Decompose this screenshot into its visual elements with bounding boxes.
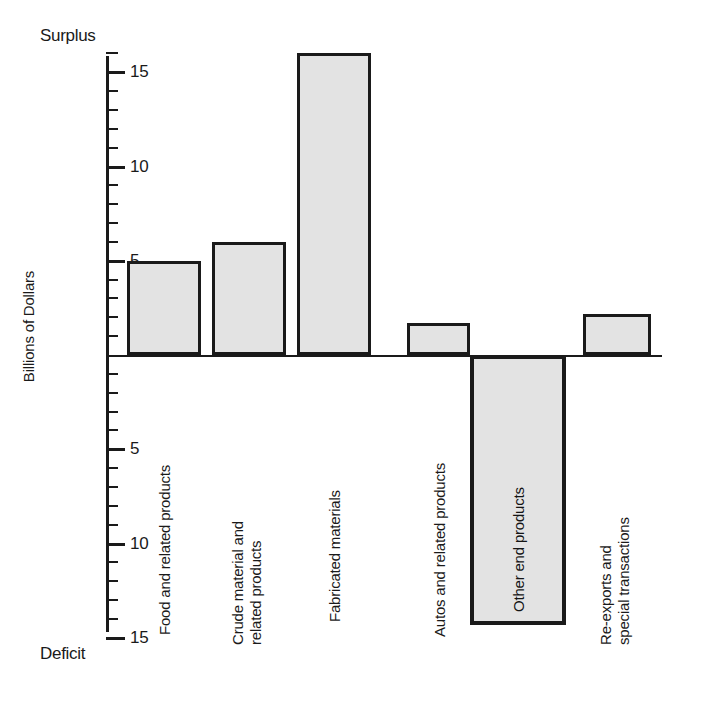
bar-reexports[interactable] — [583, 314, 651, 355]
y-tick-label: 10 — [130, 534, 148, 554]
y-tick-pos14 — [106, 90, 118, 92]
y-tick-label: 10 — [130, 157, 148, 177]
category-label-0: Food and related products — [156, 465, 174, 635]
y-axis-spine — [106, 56, 109, 632]
bar-crude[interactable] — [212, 242, 286, 355]
y-tick-pos6 — [106, 241, 118, 243]
category-label-line1: Crude material and — [229, 521, 246, 645]
y-tick-neg15 — [106, 637, 125, 640]
category-label-1: Crude material andrelated products — [229, 521, 264, 645]
bar-fabricated[interactable] — [297, 53, 371, 355]
y-tick-pos5 — [106, 260, 125, 263]
category-label-line1: Other end products — [510, 487, 527, 612]
category-label-line1: Food and related products — [156, 465, 173, 635]
y-tick-pos8 — [106, 203, 118, 205]
category-label-line1: Autos and related products — [431, 463, 448, 637]
category-label-line2: special transactions — [615, 517, 633, 645]
category-label-line2: related products — [247, 521, 265, 645]
category-label-line1: Fabricated materials — [326, 490, 343, 622]
y-tick-pos13 — [106, 109, 118, 111]
y-tick-pos7 — [106, 222, 118, 224]
y-tick-neg14 — [106, 618, 118, 620]
y-tick-neg4 — [106, 429, 118, 431]
y-tick-neg3 — [106, 411, 118, 413]
zero-baseline — [106, 355, 662, 357]
y-tick-neg11 — [106, 561, 118, 563]
bar-chart: Billions of Dollars Surplus Deficit 1510… — [0, 0, 713, 704]
bar-food[interactable] — [127, 261, 201, 355]
y-tick-pos2 — [106, 316, 118, 318]
y-tick-neg9 — [106, 524, 118, 526]
y-tick-pos11 — [106, 147, 118, 149]
y-tick-neg8 — [106, 505, 118, 507]
y-tick-pos4 — [106, 279, 118, 281]
y-tick-pos1 — [106, 335, 118, 337]
category-label-3: Autos and related products — [431, 463, 449, 637]
y-tick-neg6 — [106, 467, 118, 469]
y-tick-pos9 — [106, 184, 118, 186]
y-tick-neg2 — [106, 392, 118, 394]
y-tick-pos3 — [106, 297, 118, 299]
y-tick-pos16 — [106, 52, 118, 54]
y-tick-pos10 — [106, 166, 125, 169]
y-tick-neg7 — [106, 486, 118, 488]
y-tick-neg5 — [106, 448, 125, 451]
y-tick-label: 15 — [130, 628, 148, 648]
category-label-line1: Re-exports and — [597, 545, 614, 645]
category-label-2: Fabricated materials — [326, 490, 344, 622]
y-tick-pos12 — [106, 128, 118, 130]
category-label-4: Other end products — [510, 487, 528, 612]
category-label-5: Re-exports andspecial transactions — [597, 517, 632, 645]
y-tick-pos15 — [106, 71, 125, 74]
y-tick-neg13 — [106, 599, 118, 601]
plot-area: 1510551015 Food and related productsCrud… — [0, 0, 713, 704]
y-tick-label: 15 — [130, 62, 148, 82]
y-tick-neg12 — [106, 580, 118, 582]
y-tick-label: 5 — [130, 439, 139, 459]
y-tick-neg10 — [106, 543, 125, 546]
bar-autos[interactable] — [407, 323, 470, 355]
y-tick-neg1 — [106, 373, 118, 375]
